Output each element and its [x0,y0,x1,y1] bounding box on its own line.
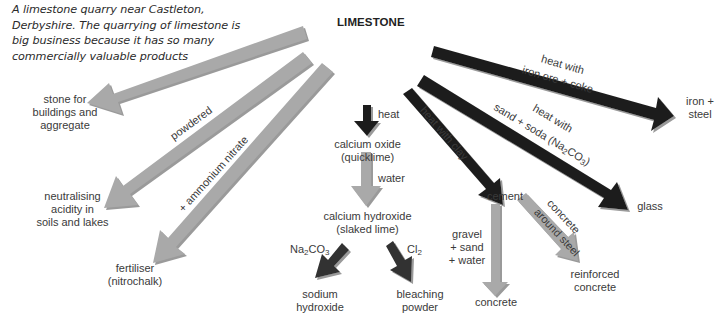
formula-sub: 3 [325,248,329,257]
formula-part: Cl [407,243,417,255]
condition-na2co3: Na2CO3 [290,243,329,256]
label-line: + water [444,254,490,267]
formula-sub: 2 [417,248,421,257]
product-neutralising: neutralising acidity in soils and lakes [30,190,115,229]
condition-gravel-sand-water: gravel + sand + water [444,228,490,267]
product-bleaching-powder: bleaching powder [385,288,455,314]
label-line: iron + [680,95,720,108]
label-line: concrete [560,281,630,294]
label-line: steel [680,108,720,121]
arrow-to-fertiliser [153,63,333,263]
label-line: (quicklime) [320,151,415,164]
product-stone: stone for buildings and aggregate [20,93,110,132]
label-line: hydroxide [285,301,355,314]
product-concrete: concrete [466,296,526,309]
arrow-to-stone [87,26,307,114]
product-sodium-hydroxide: sodium hydroxide [285,288,355,314]
label-line: neutralising [30,190,115,203]
label-line: powder [385,301,455,314]
label-line: sodium [285,288,355,301]
formula-part: Na [290,243,304,255]
label-line: (slaked lime) [315,223,420,236]
label-line: + sand [444,241,490,254]
label-line: calcium hydroxide [315,210,420,223]
product-calcium-hydroxide: calcium hydroxide (slaked lime) [315,210,420,236]
arrow-heat [354,105,379,136]
product-fertiliser: fertiliser (nitrochalk) [95,262,175,288]
product-reinforced-concrete: reinforced concrete [560,268,630,294]
label-line: stone for [20,93,110,106]
label-line: reinforced [560,268,630,281]
product-cement: cement [475,190,535,203]
label-line: buildings and [20,106,110,119]
label-line: gravel [444,228,490,241]
product-glass: glass [630,200,670,213]
label-line: calcium oxide [320,138,415,151]
product-calcium-oxide: calcium oxide (quicklime) [320,138,415,164]
condition-cl2: Cl2 [407,243,422,256]
condition-heat: heat [378,108,399,121]
label-line: soils and lakes [30,216,115,229]
product-iron-steel: iron + steel [680,95,720,121]
label-line: (nitrochalk) [95,275,175,288]
condition-water: water [378,172,405,185]
formula-part: CO [309,243,326,255]
label-line: aggregate [20,119,110,132]
label-line: bleaching [385,288,455,301]
label-line: acidity in [30,203,115,216]
label-line: fertiliser [95,262,175,275]
